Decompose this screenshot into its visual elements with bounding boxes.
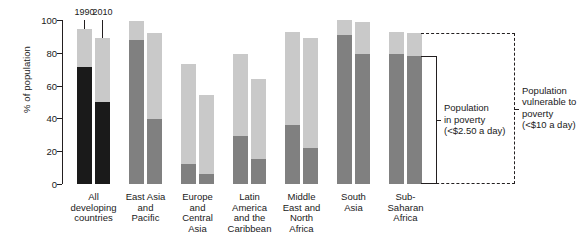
bar-segment-poverty [95, 102, 110, 184]
bar-2010 [251, 79, 266, 184]
bar-2010 [95, 38, 110, 184]
bar-group [77, 20, 110, 184]
bar-segment-poverty [407, 56, 422, 184]
y-tick-label: 20 [17, 146, 57, 157]
bar-group [129, 20, 162, 184]
bar-2010 [407, 33, 422, 184]
bar-1990 [129, 21, 144, 184]
bar-2010 [147, 33, 162, 184]
plot-area [63, 20, 427, 184]
bar-segment-vulnerable [389, 32, 404, 55]
y-tick-mark [57, 151, 62, 152]
error-bar [102, 20, 103, 38]
y-tick-label: 80 [17, 47, 57, 58]
y-tick-mark [57, 118, 62, 119]
bar-segment-poverty [303, 148, 318, 184]
bar-1990 [389, 31, 404, 184]
y-tick-mark [57, 184, 62, 185]
error-bar [84, 20, 85, 29]
bar-group [181, 20, 214, 184]
bar-2010 [303, 38, 318, 184]
vulnerable-bracket-nub [514, 109, 519, 110]
bar-1990 [233, 54, 248, 184]
bar-segment-poverty [129, 40, 144, 184]
bar-segment-vulnerable [129, 21, 144, 40]
bar-segment-poverty [251, 159, 266, 184]
bar-segment-poverty [77, 67, 92, 184]
y-tick-label: 60 [17, 80, 57, 91]
bar-segment-poverty [389, 54, 404, 184]
bar-segment-vulnerable [303, 38, 318, 148]
bar-segment-poverty [181, 164, 196, 184]
bar-2010 [199, 95, 214, 184]
bar-1990 [181, 64, 196, 184]
y-tick-mark [57, 86, 62, 87]
vulnerable-bracket [421, 33, 515, 184]
bar-segment-vulnerable [199, 95, 214, 174]
bar-segment-vulnerable [233, 54, 248, 136]
bar-segment-vulnerable [355, 22, 370, 55]
y-tick-label: 40 [17, 113, 57, 124]
bar-segment-poverty [147, 119, 162, 184]
bar-segment-poverty [233, 136, 248, 184]
bar-1990 [77, 29, 92, 184]
bar-segment-poverty [199, 174, 214, 184]
bar-segment-vulnerable [77, 29, 92, 67]
vulnerable-annotation-label: Population vulnerable to poverty (<$10 a… [522, 85, 588, 131]
bar-group [389, 20, 422, 184]
category-label: Sub- Saharan Africa [373, 192, 439, 224]
bar-1990 [285, 31, 300, 184]
bar-segment-vulnerable [337, 20, 352, 35]
bar-group [337, 20, 370, 184]
bar-segment-vulnerable [407, 33, 422, 56]
bar-segment-poverty [355, 54, 370, 184]
year-marker-2010: 2010 [86, 7, 120, 17]
bar-segment-vulnerable [251, 79, 266, 159]
bar-segment-vulnerable [147, 33, 162, 119]
bar-1990 [337, 20, 352, 184]
y-tick-mark [57, 20, 62, 21]
bar-segment-vulnerable [285, 32, 300, 125]
bar-group [285, 20, 318, 184]
y-tick-mark [57, 53, 62, 54]
y-tick-label: 0 [17, 179, 57, 190]
poverty-stacked-bar-chart: % of population 100806040200 19902010 Al… [0, 0, 588, 242]
bar-2010 [355, 22, 370, 184]
bar-segment-vulnerable [181, 64, 196, 164]
bar-segment-poverty [337, 35, 352, 184]
y-tick-label: 100 [17, 15, 57, 26]
bar-group [233, 20, 266, 184]
bar-segment-poverty [285, 125, 300, 184]
bar-segment-vulnerable [95, 38, 110, 102]
